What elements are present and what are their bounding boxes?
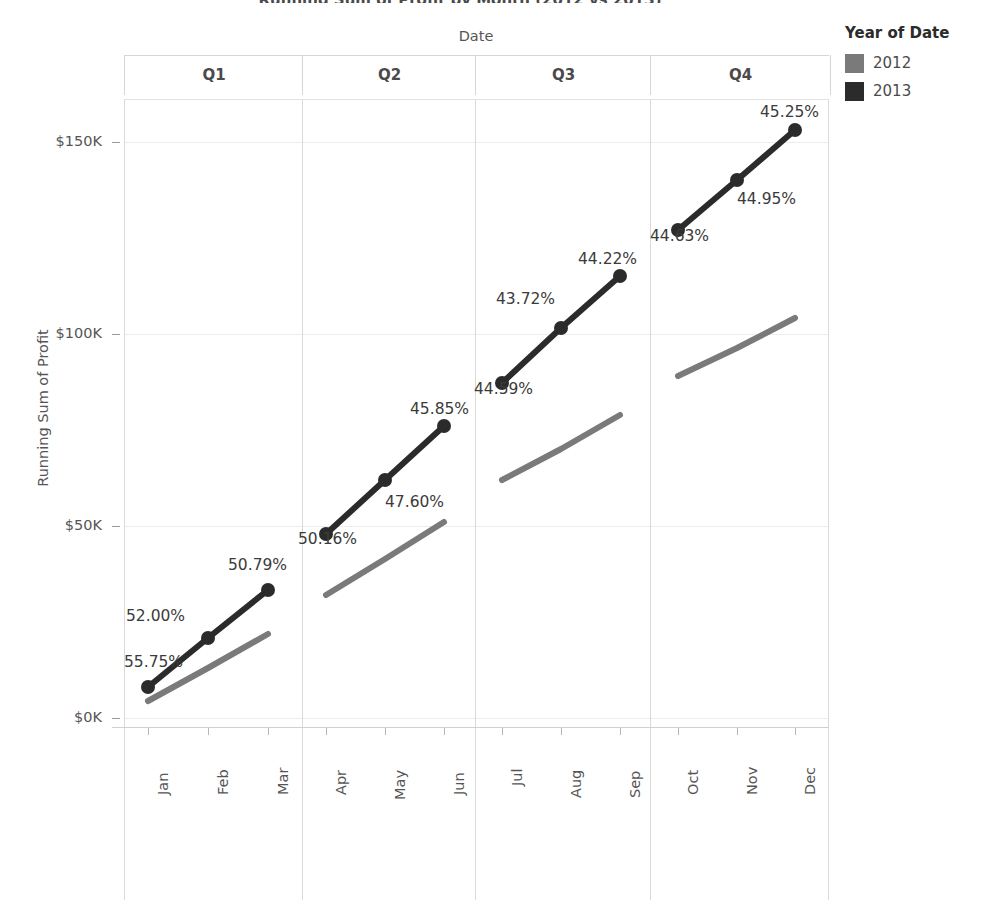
- x-tick-label-jul: Jul: [509, 769, 525, 787]
- data-label-jul: 44.59%: [474, 380, 533, 398]
- series-2013-point-jun: [437, 419, 451, 433]
- quarter-header-q4: Q4: [650, 55, 831, 95]
- series-2013-point-mar: [261, 583, 275, 597]
- data-label-jan: 55.75%: [124, 653, 183, 671]
- legend-swatch-2012-icon: [845, 54, 864, 73]
- legend-item-2013[interactable]: 2013: [845, 77, 1005, 105]
- series-2013-point-nov: [730, 173, 744, 187]
- series-2012-q4-line: [678, 318, 795, 376]
- data-label-oct: 44.63%: [650, 227, 709, 245]
- y-tick-mark-100k: [112, 334, 120, 335]
- chart-title: Running Sum of Profit by Month (2012 vs …: [150, 0, 770, 3]
- data-label-sep: 44.22%: [578, 250, 637, 268]
- data-label-may: 47.60%: [385, 493, 444, 511]
- panel-border-right: [828, 100, 829, 900]
- chart-canvas: Running Sum of Profit by Month (2012 vs …: [0, 0, 1007, 912]
- x-axis-baseline: [112, 727, 829, 728]
- quarter-header-q1: Q1: [124, 55, 303, 95]
- x-tick-label-may: May: [392, 770, 408, 800]
- x-tick-mark-may: [385, 728, 386, 735]
- y-tick-label-50k: $50K: [22, 517, 102, 533]
- series-2012-q3-line: [502, 415, 620, 480]
- x-tick-label-oct: Oct: [685, 770, 701, 795]
- x-tick-mark-jan: [148, 728, 149, 735]
- series-2013-point-sep: [613, 269, 627, 283]
- x-tick-mark-aug: [561, 728, 562, 735]
- legend-label-2012: 2012: [873, 54, 911, 72]
- panel-border-left: [124, 100, 125, 900]
- legend-swatch-2013-icon: [845, 82, 864, 101]
- series-2013-point-dec: [788, 123, 802, 137]
- x-tick-label-jun: Jun: [451, 772, 467, 795]
- quarter-header-bottom-rule: [124, 99, 829, 100]
- y-tick-mark-0k: [112, 718, 120, 719]
- x-tick-mark-oct: [678, 728, 679, 735]
- x-tick-label-apr: Apr: [333, 770, 349, 795]
- panel-separator-q3-q4: [650, 100, 651, 900]
- x-tick-label-feb: Feb: [215, 769, 231, 795]
- legend: Year of Date 2012 2013: [845, 24, 1005, 105]
- series-2013-q1-line: [148, 590, 268, 687]
- series-plot-layer: [0, 0, 1007, 912]
- y-axis-title: Running Sum of Profit: [35, 228, 51, 588]
- series-2013-point-feb: [201, 631, 215, 645]
- x-tick-mark-feb: [208, 728, 209, 735]
- x-tick-mark-apr: [326, 728, 327, 735]
- x-tick-label-sep: Sep: [627, 771, 643, 798]
- series-2013-q4-line: [678, 130, 795, 230]
- data-label-dec: 45.25%: [760, 103, 819, 121]
- data-label-aug: 43.72%: [496, 290, 555, 308]
- x-axis-title: Date: [124, 28, 828, 44]
- y-tick-label-100k: $100K: [22, 325, 102, 341]
- series-2013-q2-line: [326, 426, 444, 534]
- series-2013-point-jan: [141, 680, 155, 694]
- x-tick-mark-nov: [737, 728, 738, 735]
- quarter-header-q2: Q2: [302, 55, 476, 95]
- quarter-header-q3: Q3: [475, 55, 651, 95]
- y-tick-label-0k: $0K: [22, 709, 102, 725]
- panel-separator-q2-q3: [475, 100, 476, 900]
- x-tick-mark-mar: [268, 728, 269, 735]
- series-2013-point-aug: [554, 321, 568, 335]
- x-tick-label-nov: Nov: [744, 767, 760, 795]
- data-label-feb: 52.00%: [126, 607, 185, 625]
- x-tick-mark-jul: [502, 728, 503, 735]
- x-tick-mark-dec: [795, 728, 796, 735]
- x-tick-label-jan: Jan: [155, 773, 171, 795]
- y-tick-label-150k: $150K: [22, 133, 102, 149]
- data-label-apr: 50.16%: [298, 530, 357, 548]
- legend-title: Year of Date: [845, 24, 1005, 42]
- gridline-150k: [124, 142, 829, 143]
- data-label-nov: 44.95%: [737, 190, 796, 208]
- gridline-50k: [124, 526, 829, 527]
- x-tick-mark-sep: [620, 728, 621, 735]
- data-label-mar: 50.79%: [228, 556, 287, 574]
- legend-label-2013: 2013: [873, 82, 911, 100]
- gridline-0k: [124, 718, 829, 719]
- panel-separator-q1-q2: [302, 100, 303, 900]
- series-2013-point-may: [378, 473, 392, 487]
- x-tick-label-aug: Aug: [568, 770, 584, 798]
- gridline-100k: [124, 334, 829, 335]
- y-tick-mark-50k: [112, 526, 120, 527]
- legend-item-2012[interactable]: 2012: [845, 49, 1005, 77]
- x-tick-label-dec: Dec: [802, 767, 818, 795]
- x-tick-label-mar: Mar: [275, 768, 291, 795]
- x-tick-mark-jun: [444, 728, 445, 735]
- data-label-jun: 45.85%: [410, 400, 469, 418]
- y-tick-mark-150k: [112, 142, 120, 143]
